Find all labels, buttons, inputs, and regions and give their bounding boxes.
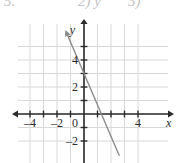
header-fragment-3: 3) [128,0,141,10]
x-tick-label: –2 [50,116,63,130]
cropped-header-text: 5. 2) y 3) [0,0,176,18]
coordinate-plane: –4–20442–2xy [0,18,176,163]
x-tick-label: 0 [72,116,78,130]
header-fragment-2: 2) y [78,0,101,10]
x-tick-label: 4 [135,116,141,130]
y-tick-label: 4 [72,53,78,67]
header-fragment-1: 5. [4,0,15,10]
x-axis-label: x [165,116,172,130]
y-tick-label: –2 [65,134,78,148]
y-axis-label: y [69,23,76,37]
graph-page: 5. 2) y 3) –4–20442–2xy [0,0,176,163]
y-tick-label: 2 [72,80,78,94]
plot-svg: –4–20442–2xy [0,18,176,163]
x-tick-label: –4 [23,116,36,130]
